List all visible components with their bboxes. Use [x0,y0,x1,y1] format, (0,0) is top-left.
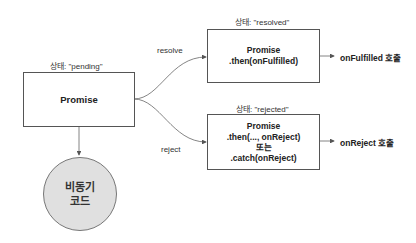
reject-result: onReject 호출 [340,136,394,148]
resolve-edge [134,57,206,99]
fulfilled-result: onFulfilled 호출 [340,51,401,63]
async-line-1: 비동기 [65,180,95,194]
rejected-line-2: .then(..., onReject) [227,132,301,143]
rejected-promise-box: Promise .then(..., onReject) 또는 .catch(o… [207,114,320,170]
async-line-2: 코드 [70,194,90,208]
reject-edge [134,99,206,142]
resolve-label: resolve [157,46,183,55]
rejected-line-4: .catch(onReject) [230,153,296,164]
pending-state-label: 상태: "pending" [50,60,103,71]
rejected-line-3: 또는 [256,142,272,153]
async-code-circle: 비동기 코드 [43,157,117,231]
resolved-state-label: 상태: "resolved" [235,16,289,27]
pending-title: Promise [60,94,98,105]
resolved-line-2: .then(onFulfilled) [229,56,298,67]
rejected-line-1: Promise [247,121,281,132]
pending-promise-box: Promise [23,72,135,127]
rejected-state-label: 상태: "rejected" [236,103,289,114]
resolved-line-1: Promise [247,45,281,56]
reject-label: reject [161,145,181,154]
resolved-promise-box: Promise .then(onFulfilled) [207,29,320,83]
